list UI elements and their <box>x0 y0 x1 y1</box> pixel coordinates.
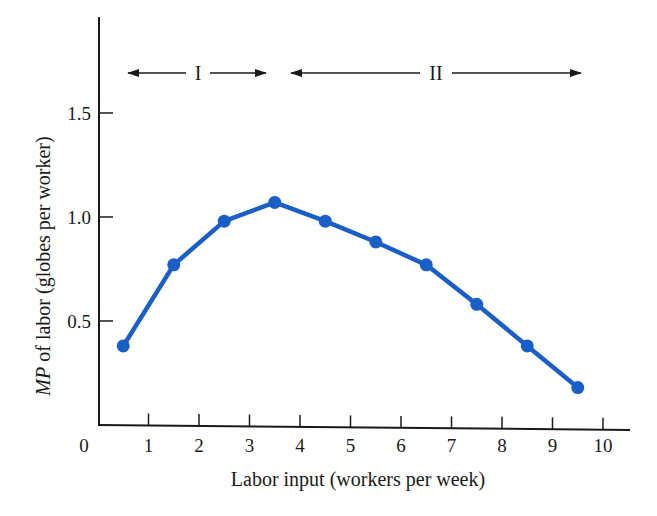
y-axis-title-rest: of labor (globes per worker) <box>32 136 55 366</box>
x-tick-label: 1 <box>144 435 154 456</box>
x-axis-title: Labor input (workers per week) <box>231 468 485 491</box>
axes: 0123456789100.51.01.5 <box>67 17 630 456</box>
data-series <box>117 196 585 394</box>
x-axis-line <box>98 425 630 430</box>
data-point-marker <box>319 215 332 228</box>
x-tick-label: 4 <box>295 435 305 456</box>
region-i-annotation: I <box>128 62 266 84</box>
y-tick-label: 1.0 <box>67 207 91 228</box>
x-tick-label: 6 <box>396 435 406 456</box>
x-tick-label: 3 <box>245 435 255 456</box>
x-tick-label: 7 <box>447 435 457 456</box>
x-tick-label: 9 <box>548 435 558 456</box>
y-axis-title: MP of labor (globes per worker) <box>32 136 55 396</box>
data-point-marker <box>218 215 231 228</box>
region-ii-annotation: II <box>291 62 581 84</box>
region-label: I <box>195 62 202 84</box>
y-axis-title-italic: MP <box>32 367 54 397</box>
data-point-marker <box>117 339 130 352</box>
x-tick-label: 8 <box>497 435 507 456</box>
data-point-marker <box>521 339 534 352</box>
y-tick-label: 1.5 <box>67 103 91 124</box>
x-tick-label: 2 <box>194 435 204 456</box>
mp-labor-line <box>123 202 578 387</box>
data-point-marker <box>420 258 433 271</box>
y-tick-label: 0.5 <box>67 311 91 332</box>
x-tick-label: 10 <box>594 435 613 456</box>
x-tick-label: 0 <box>79 435 89 456</box>
data-point-marker <box>470 298 483 311</box>
data-point-marker <box>167 258 180 271</box>
x-tick-label: 5 <box>346 435 356 456</box>
data-point-marker <box>268 196 281 209</box>
region-label: II <box>429 62 442 84</box>
data-point-marker <box>369 235 382 248</box>
region-annotations: III <box>128 62 581 84</box>
mp-labor-chart: 0123456789100.51.01.5 III Labor input (w… <box>0 0 657 516</box>
data-point-marker <box>571 381 584 394</box>
